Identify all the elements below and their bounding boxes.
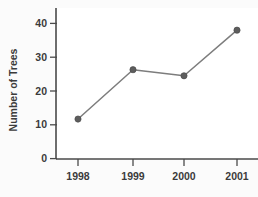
data-point-1998: [75, 116, 81, 122]
y-tick-label-40: 40: [35, 17, 47, 29]
y-tick-label-10: 10: [35, 118, 47, 130]
y-tick-label-20: 20: [35, 85, 47, 97]
y-tick-label-0: 0: [41, 152, 47, 164]
plot-area-background: [54, 8, 258, 159]
x-tick-label-1998: 1998: [66, 170, 90, 182]
data-point-2000: [181, 73, 187, 79]
line-chart-figure: Number of Trees 40 30 20 10 0 1998 1999: [0, 0, 258, 197]
x-tick-label-1999: 1999: [121, 170, 145, 182]
data-point-1999: [130, 67, 136, 73]
y-axis-title: Number of Trees: [7, 48, 19, 131]
x-tick-label-2001: 2001: [225, 170, 249, 182]
x-tick-label-2000: 2000: [172, 170, 196, 182]
y-tick-label-30: 30: [35, 51, 47, 63]
chart-canvas: Number of Trees 40 30 20 10 0 1998 1999: [0, 0, 258, 197]
data-point-2001: [234, 27, 240, 33]
